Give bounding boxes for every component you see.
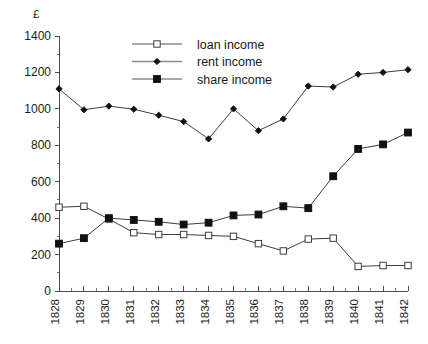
data-point-marker	[305, 236, 311, 242]
x-tick-label: 1828	[49, 299, 61, 325]
data-point-marker	[355, 146, 362, 153]
legend-marker-icon	[154, 58, 160, 64]
data-point-marker	[305, 205, 312, 212]
data-point-marker	[181, 119, 187, 125]
y-tick-label: 800	[31, 138, 51, 152]
legend-item-label: rent income	[197, 55, 262, 69]
x-tick-label: 1840	[348, 299, 360, 325]
x-tick-label: 1832	[149, 299, 161, 325]
x-axis-tick-labels: 1828182918301831183218331834183518361837…	[49, 298, 410, 324]
x-tick-label: 1833	[174, 299, 186, 325]
y-tick-label: 0	[44, 284, 51, 298]
line-chart: 0200400600800100012001400 18281829183018…	[0, 0, 428, 344]
x-tick-label: 1837	[273, 299, 285, 325]
data-point-marker	[155, 218, 162, 225]
x-tick-label: 1836	[248, 299, 260, 325]
data-point-marker	[81, 235, 88, 242]
data-point-marker	[330, 173, 337, 180]
legend-item-share-income[interactable]: share income	[132, 73, 272, 87]
data-point-marker	[205, 232, 211, 238]
data-series-group	[56, 67, 412, 270]
data-point-marker	[105, 215, 112, 222]
x-tick-label: 1830	[99, 299, 111, 325]
legend-item-loan-income[interactable]: loan income	[132, 38, 264, 52]
series-share-income	[56, 129, 412, 247]
data-point-marker	[81, 203, 87, 209]
x-tick-label: 1841	[373, 299, 385, 325]
y-tick-label: 1200	[24, 65, 51, 79]
data-point-marker	[405, 67, 411, 73]
x-tick-label: 1842	[398, 299, 410, 325]
legend-item-rent-income[interactable]: rent income	[132, 55, 262, 69]
data-point-marker	[56, 240, 63, 247]
chart-container: 0200400600800100012001400 18281829183018…	[0, 0, 428, 344]
data-point-marker	[355, 71, 361, 77]
legend-item-label: loan income	[197, 38, 264, 52]
data-point-marker	[330, 84, 336, 90]
data-point-marker	[380, 141, 387, 148]
data-point-marker	[156, 231, 162, 237]
data-point-marker	[56, 204, 62, 210]
x-tick-label: 1829	[74, 299, 86, 325]
data-point-marker	[405, 129, 412, 136]
y-tick-label: 1400	[24, 29, 51, 43]
x-tick-label: 1831	[124, 299, 136, 325]
data-point-marker	[180, 231, 186, 237]
data-point-marker	[255, 240, 261, 246]
data-point-marker	[180, 221, 187, 228]
data-point-marker	[280, 203, 287, 210]
y-tick-label: 400	[31, 211, 51, 225]
chart-legend: loan incomerent incomeshare income	[132, 38, 272, 87]
legend-marker-icon	[154, 41, 160, 47]
data-point-marker	[230, 233, 236, 239]
data-point-marker	[205, 219, 212, 226]
data-point-marker	[131, 230, 137, 236]
data-point-marker	[355, 263, 361, 269]
data-point-marker	[130, 217, 137, 224]
legend-item-label: share income	[197, 73, 272, 87]
data-point-marker	[380, 69, 386, 75]
data-point-marker	[380, 262, 386, 268]
y-axis-tick-labels: 0200400600800100012001400	[24, 29, 51, 298]
data-point-marker	[106, 103, 112, 109]
x-tick-label: 1839	[323, 299, 335, 325]
y-tick-label: 600	[31, 175, 51, 189]
data-point-marker	[405, 262, 411, 268]
data-point-marker	[330, 235, 336, 241]
legend-marker-icon	[154, 76, 161, 83]
x-tick-label: 1834	[199, 298, 211, 324]
x-tick-label: 1835	[224, 299, 236, 325]
data-point-marker	[156, 112, 162, 118]
y-axis-unit-label: £	[33, 8, 40, 20]
data-point-marker	[280, 248, 286, 254]
data-point-marker	[230, 212, 237, 219]
data-point-marker	[255, 211, 262, 218]
y-tick-label: 200	[31, 248, 51, 262]
x-tick-label: 1838	[298, 299, 310, 325]
y-tick-label: 1000	[24, 102, 51, 116]
data-point-marker	[131, 106, 137, 112]
